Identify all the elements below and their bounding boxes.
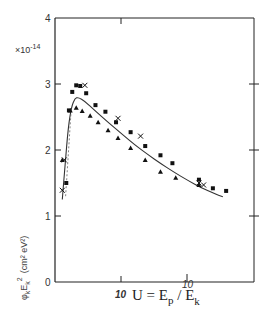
data-point-cross — [82, 83, 87, 88]
data-point-square — [211, 186, 215, 190]
y-tick-label-0: 0 — [45, 277, 51, 288]
series-squares — [64, 83, 228, 193]
y-tick-label-4: 4 — [45, 13, 51, 24]
data-point-triangle — [116, 136, 121, 141]
data-point-triangle — [74, 105, 79, 110]
data-point-square — [74, 83, 78, 87]
data-point-cross — [60, 188, 65, 193]
data-point-square — [93, 103, 97, 107]
data-point-triangle — [143, 157, 148, 162]
data-point-cross — [201, 182, 206, 187]
x-axis-label: U = Ep / Ek — [132, 287, 200, 307]
data-point-square — [158, 153, 162, 157]
data-point-cross — [138, 134, 143, 139]
data-point-triangle — [128, 146, 133, 151]
y-axis-label: φkEk2(cm² eV²) — [16, 236, 31, 300]
y-tick-label-1: 1 — [45, 211, 51, 222]
y-tick-label-3: 3 — [45, 79, 51, 90]
data-point-square — [170, 161, 174, 165]
data-point-cross — [116, 116, 121, 121]
chart: 01234 10 10 ×10-14 U = Ep / Ek φkEk2(cm²… — [0, 0, 266, 325]
data-point-square — [84, 91, 88, 95]
series-triangles — [60, 105, 202, 187]
y-tick-label-2: 2 — [45, 145, 51, 156]
y-axis-ticks: 01234 — [45, 13, 259, 288]
data-point-square — [143, 144, 147, 148]
data-point-square — [78, 84, 82, 88]
data-point-square — [103, 110, 107, 114]
data-point-triangle — [88, 113, 93, 118]
data-point-triangle — [106, 128, 111, 133]
data-point-square — [70, 90, 74, 94]
x-tick-label-10: 10 — [115, 289, 127, 300]
data-point-triangle — [96, 120, 101, 125]
data-point-triangle — [158, 169, 163, 174]
data-point-triangle — [80, 109, 85, 114]
data-point-square — [129, 130, 133, 134]
data-point-square — [64, 181, 68, 185]
data-point-triangle — [173, 175, 178, 180]
y-multiplier: ×10-14 — [15, 43, 41, 55]
data-point-square — [224, 189, 228, 193]
plot-frame — [55, 18, 254, 282]
